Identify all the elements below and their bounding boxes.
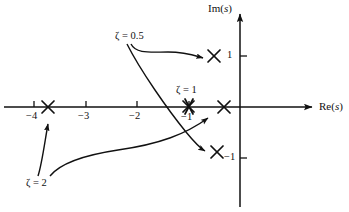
tick-label-minus-4: −4 — [26, 111, 37, 122]
tick-label-minus-1: −1 — [181, 112, 192, 123]
leader-zeta2-left — [38, 124, 48, 176]
plot-canvas — [0, 0, 349, 212]
leader-zeta2-right — [50, 118, 208, 176]
annotation-zeta-1: ζ = 1 — [176, 85, 197, 96]
pole-marker-zeta05-upper — [208, 50, 220, 62]
tick-label-minus-1i: −1 — [224, 152, 235, 163]
leader-zeta05-upper — [131, 44, 203, 58]
real-axis-label: Re(s) — [319, 101, 343, 112]
annotation-zeta-0-5: ζ = 0.5 — [115, 31, 144, 42]
imaginary-axis-label: Im(s) — [208, 3, 232, 14]
tick-label-plus-1i: 1 — [227, 50, 232, 61]
pole-marker-zeta05-lower — [211, 146, 223, 158]
pole-zero-figure: Im(s) Re(s) −4 −3 −2 −1 1 −1 ζ = 0.5 ζ =… — [0, 0, 349, 212]
tick-label-minus-2: −2 — [129, 111, 140, 122]
annotation-zeta-2: ζ = 2 — [26, 178, 47, 189]
leader-zeta05-lower — [127, 44, 205, 151]
tick-label-minus-3: −3 — [78, 111, 89, 122]
